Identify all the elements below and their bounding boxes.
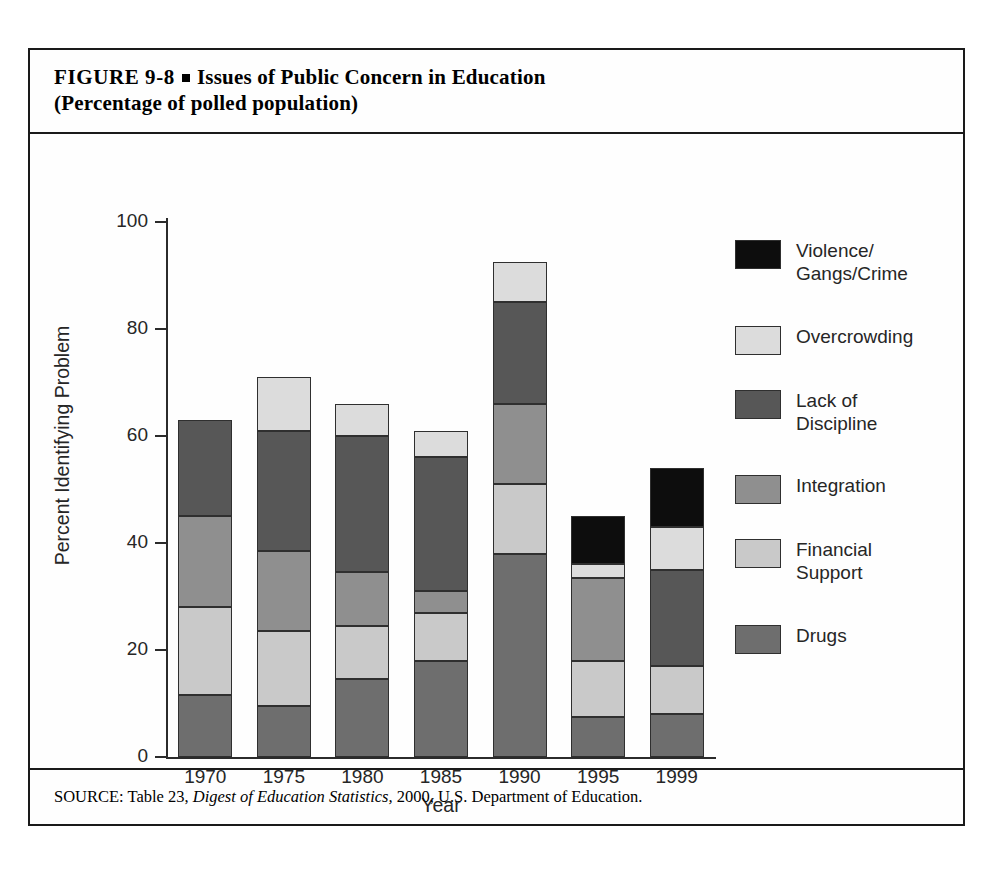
y-tick-label-0: 0	[90, 745, 148, 767]
legend-swatch-discipline	[735, 390, 781, 419]
y-tick-label-20: 20	[90, 638, 148, 660]
bar-segment-1999-violence-gangs-crime[interactable]	[650, 468, 704, 527]
legend-label-text: Drugs	[796, 624, 847, 647]
bar-stack-1970[interactable]	[178, 222, 232, 757]
bar-segment-1970-integration[interactable]	[178, 516, 232, 607]
bar-segment-1985-financial-support[interactable]	[414, 613, 468, 661]
y-tick-40	[155, 542, 166, 544]
bar-segment-1985-integration[interactable]	[414, 591, 468, 612]
bar-segment-1985-overcrowding[interactable]	[414, 431, 468, 458]
y-tick-60	[155, 435, 166, 437]
figure-source-block: SOURCE: Table 23, Digest of Education St…	[30, 768, 963, 824]
y-tick-0	[155, 756, 166, 758]
y-tick-label-60: 60	[90, 424, 148, 446]
figure-title-line-2: (Percentage of polled population)	[54, 90, 963, 116]
bar-segment-1980-integration[interactable]	[335, 572, 389, 626]
bar-segment-1975-financial-support[interactable]	[257, 631, 311, 706]
bar-segment-1999-drugs[interactable]	[650, 714, 704, 757]
figure-title-main: Issues of Public Concern in Education	[197, 65, 546, 89]
bar-segment-1980-overcrowding[interactable]	[335, 404, 389, 436]
bar-segment-1995-integration[interactable]	[571, 578, 625, 661]
y-axis-title: Percent Identifying Problem	[51, 246, 74, 646]
legend-item-financial-support[interactable]: Financial Support	[735, 538, 872, 584]
legend-item-violence-gangs-crime[interactable]: Violence/ Gangs/Crime	[735, 239, 908, 285]
figure-number: FIGURE 9-8	[54, 65, 175, 89]
bar-segment-1995-overcrowding[interactable]	[571, 564, 625, 577]
plot-region: 020406080100 Percent Identifying Problem…	[30, 134, 967, 772]
figure-frame: FIGURE 9-8Issues of Public Concern in Ed…	[28, 48, 965, 826]
figure-title-block: FIGURE 9-8Issues of Public Concern in Ed…	[30, 50, 963, 134]
bar-segment-1995-drugs[interactable]	[571, 717, 625, 757]
bar-segment-1999-financial-support[interactable]	[650, 666, 704, 714]
source-prefix: SOURCE: Table 23,	[54, 787, 193, 806]
bar-segment-1995-financial-support[interactable]	[571, 661, 625, 717]
legend-swatch-drugs	[735, 625, 781, 654]
bar-segment-1975-drugs[interactable]	[257, 706, 311, 757]
bars-layer	[166, 222, 716, 757]
legend-label-text: Financial Support	[796, 538, 872, 584]
bar-segment-1990-financial-support[interactable]	[493, 484, 547, 554]
bar-segment-1990-drugs[interactable]	[493, 554, 547, 757]
figure-title-line-1: FIGURE 9-8Issues of Public Concern in Ed…	[54, 64, 963, 90]
bar-segment-1985-lack-of-discipline[interactable]	[414, 457, 468, 591]
bar-stack-1975[interactable]	[257, 222, 311, 757]
legend-item-drugs[interactable]: Drugs	[735, 624, 847, 654]
legend-label-text: Integration	[796, 474, 886, 497]
bar-segment-1975-integration[interactable]	[257, 551, 311, 631]
bar-stack-1990[interactable]	[493, 222, 547, 757]
legend-item-overcrowding[interactable]: Overcrowding	[735, 325, 913, 355]
bar-segment-1985-drugs[interactable]	[414, 661, 468, 757]
bar-segment-1980-financial-support[interactable]	[335, 626, 389, 680]
bar-stack-1999[interactable]	[650, 222, 704, 757]
bar-segment-1990-overcrowding[interactable]	[493, 262, 547, 302]
bar-segment-1999-overcrowding[interactable]	[650, 527, 704, 570]
bar-segment-1970-drugs[interactable]	[178, 695, 232, 757]
square-bullet-icon	[182, 74, 190, 82]
bar-stack-1985[interactable]	[414, 222, 468, 757]
y-tick-20	[155, 649, 166, 651]
bar-segment-1975-overcrowding[interactable]	[257, 377, 311, 431]
y-tick-80	[155, 328, 166, 330]
source-italic-title: Digest of Education Statistics,	[193, 787, 393, 806]
y-tick-label-80: 80	[90, 317, 148, 339]
bar-segment-1995-violence-gangs-crime[interactable]	[571, 516, 625, 564]
legend-item-lack-of-discipline[interactable]: Lack of Discipline	[735, 389, 877, 435]
legend-label-text: Overcrowding	[796, 325, 913, 348]
legend-swatch-overcrowding	[735, 326, 781, 355]
bar-segment-1975-lack-of-discipline[interactable]	[257, 431, 311, 551]
y-tick-label-100: 100	[90, 210, 148, 232]
source-suffix: 2000, U.S. Department of Education.	[393, 787, 643, 806]
legend-label-text: Lack of Discipline	[796, 389, 877, 435]
legend-swatch-integration	[735, 475, 781, 504]
figure-source-text: SOURCE: Table 23, Digest of Education St…	[54, 787, 642, 807]
bar-segment-1999-lack-of-discipline[interactable]	[650, 570, 704, 666]
legend-swatch-violence	[735, 240, 781, 269]
legend-label-text: Violence/ Gangs/Crime	[796, 239, 908, 285]
legend-swatch-financial	[735, 539, 781, 568]
bar-segment-1990-lack-of-discipline[interactable]	[493, 302, 547, 404]
legend-item-integration[interactable]: Integration	[735, 474, 886, 504]
bar-stack-1995[interactable]	[571, 222, 625, 757]
x-axis-line	[166, 757, 716, 759]
bar-segment-1970-financial-support[interactable]	[178, 607, 232, 695]
bar-stack-1980[interactable]	[335, 222, 389, 757]
y-tick-100	[155, 221, 166, 223]
bar-segment-1980-lack-of-discipline[interactable]	[335, 436, 389, 572]
y-tick-label-40: 40	[90, 531, 148, 553]
bar-segment-1980-drugs[interactable]	[335, 679, 389, 757]
bar-segment-1970-lack-of-discipline[interactable]	[178, 420, 232, 516]
bar-segment-1990-integration[interactable]	[493, 404, 547, 484]
